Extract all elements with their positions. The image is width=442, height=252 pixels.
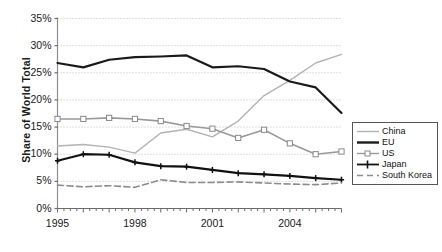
x-tick-label: 2001 [192, 217, 232, 229]
eu-line-swatch-icon [356, 137, 380, 148]
legend-label-us: US [380, 148, 395, 159]
line-chart: Share of World Total China EU US [0, 0, 442, 252]
y-tick-label: 20% [18, 93, 52, 105]
legend-item-china[interactable]: China [356, 126, 435, 137]
legend-label-japan: Japan [380, 159, 407, 170]
legend-label-eu: EU [380, 137, 395, 148]
south-korea-line-swatch-icon [356, 170, 380, 181]
legend-item-japan[interactable]: Japan [356, 159, 435, 170]
y-tick-label: 35% [18, 12, 52, 24]
legend-item-south-korea[interactable]: South Korea [356, 170, 435, 181]
series-eu [58, 55, 342, 113]
legend: China EU US Japan [352, 122, 438, 185]
y-tick-label: 25% [18, 66, 52, 78]
y-tick-label: 15% [18, 120, 52, 132]
us-line-swatch-icon [356, 148, 380, 159]
y-tick-label: 5% [18, 174, 52, 186]
series-us [55, 115, 344, 157]
legend-item-us[interactable]: US [356, 148, 435, 159]
series-china [58, 54, 342, 153]
series-japan [55, 151, 344, 183]
y-tick-label: 30% [18, 39, 52, 51]
y-tick-label: 0% [18, 202, 52, 214]
x-tick-label: 2004 [270, 217, 310, 229]
japan-line-swatch-icon [356, 159, 380, 170]
x-tick-label: 1998 [115, 217, 155, 229]
legend-item-eu[interactable]: EU [356, 137, 435, 148]
x-tick-label: 1995 [38, 217, 78, 229]
legend-label-china: China [380, 126, 406, 137]
legend-label-south-korea: South Korea [380, 170, 432, 181]
china-line-swatch-icon [356, 126, 380, 137]
y-tick-label: 10% [18, 147, 52, 159]
